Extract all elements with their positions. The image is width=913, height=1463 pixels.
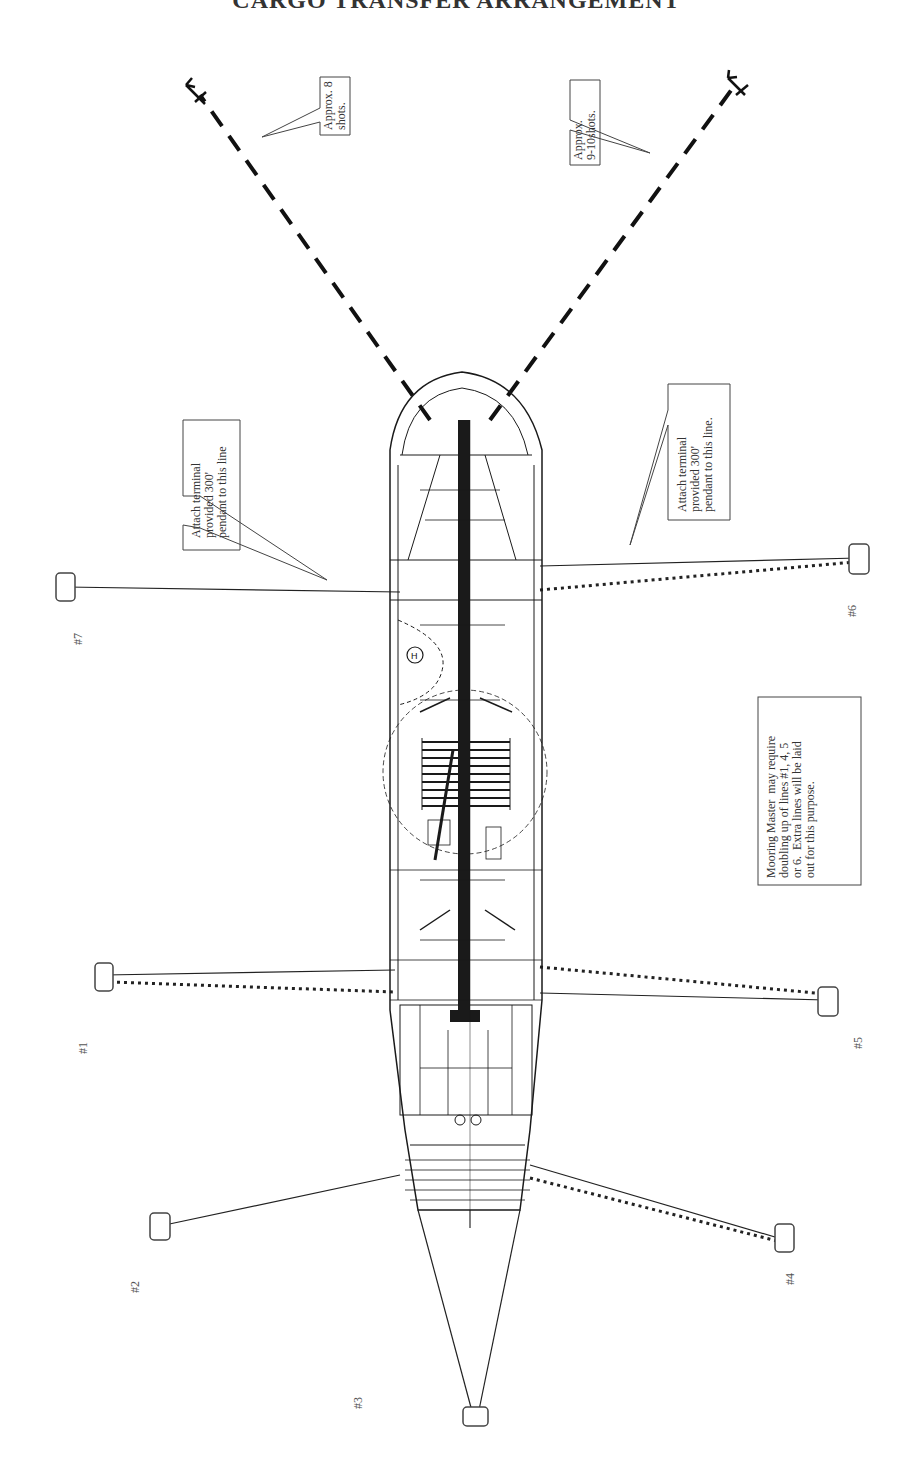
- anchor-chain-starboard: [490, 85, 735, 420]
- buoy-label-1: #1: [76, 1042, 91, 1054]
- anchor-chain-port: [200, 95, 430, 420]
- line-1-double: [110, 982, 395, 992]
- line-6-double: [540, 562, 855, 590]
- callout-anchor-port-text: Approx. 8 shots.: [322, 81, 348, 130]
- ship: H: [383, 372, 547, 1228]
- buoy-6: [849, 544, 869, 574]
- buoy-label-5: #5: [851, 1037, 866, 1049]
- buoy-label-6: #6: [845, 605, 860, 617]
- line-3a: [418, 1210, 473, 1415]
- buoy-label-2: #2: [128, 1281, 143, 1293]
- doubled-lines: [110, 562, 855, 1243]
- helideck: [398, 620, 443, 705]
- line-4: [530, 1165, 785, 1240]
- line-2: [160, 1175, 400, 1226]
- svg-text:H: H: [411, 651, 418, 661]
- buoy-5: [818, 987, 838, 1016]
- line-5-double: [540, 967, 826, 994]
- line-4-double: [530, 1178, 785, 1243]
- mooring-diagram: H: [0, 0, 913, 1463]
- buoy-2: [150, 1213, 170, 1240]
- buoy-label-7: #7: [71, 633, 86, 645]
- anchor-chains: [200, 85, 735, 420]
- line-3b: [478, 1210, 520, 1415]
- callout-pendant-starboard-text: Attach terminal provided 300' pendant to…: [676, 417, 715, 512]
- buoy-label-3: #3: [351, 1397, 366, 1409]
- buoy-1: [95, 963, 113, 991]
- callout-anchor-starboard-text: Approx. 9-10shots.: [572, 110, 598, 160]
- pipe-rack: [458, 420, 470, 1020]
- line-1: [105, 970, 395, 975]
- line-6: [540, 558, 858, 566]
- callout-pendant-port-text: Attach terminal provided 300' pendant to…: [190, 446, 229, 538]
- line-7: [66, 587, 400, 592]
- buoy-label-4: #4: [783, 1273, 798, 1285]
- line-5: [540, 993, 826, 1000]
- buoy-4: [775, 1224, 794, 1252]
- callout-mooring-master-text: Mooring Master may require doubling up o…: [765, 736, 817, 878]
- buoy-3: [463, 1407, 488, 1426]
- buoy-7: [56, 573, 75, 601]
- callout-shapes: [183, 77, 861, 885]
